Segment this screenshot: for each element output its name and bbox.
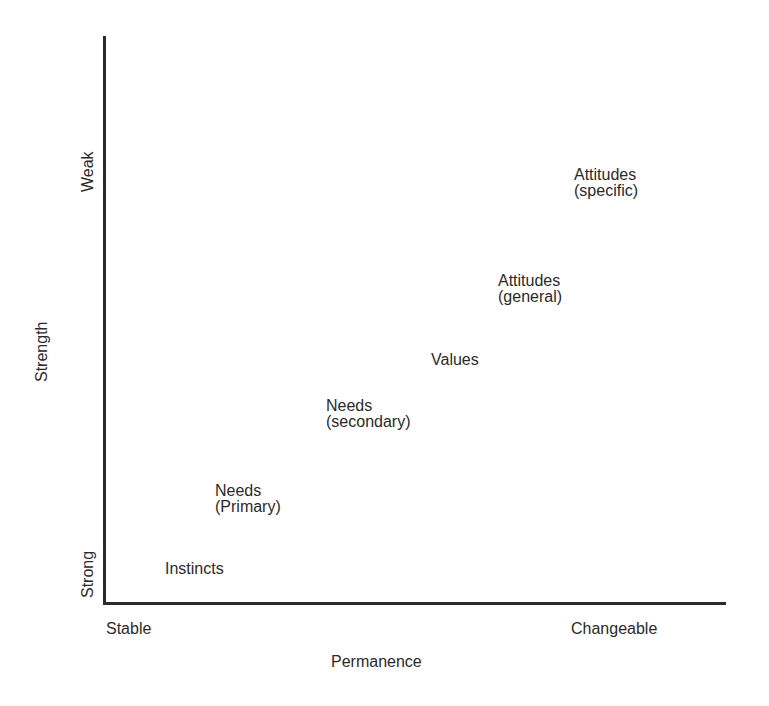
item-label: Needs	[215, 483, 281, 499]
item-label: Values	[431, 352, 479, 368]
x-axis-low-label: Stable	[106, 621, 151, 637]
item-needs-primary: Needs (Primary)	[215, 483, 281, 515]
x-axis-title: Permanence	[331, 654, 422, 670]
x-axis-high-label: Changeable	[571, 621, 657, 637]
item-sublabel: (specific)	[574, 183, 638, 199]
item-instincts: Instincts	[165, 561, 224, 577]
y-axis-title: Strength	[34, 322, 50, 382]
x-axis-line	[103, 602, 726, 605]
item-sublabel: (Primary)	[215, 499, 281, 515]
y-axis-line	[103, 36, 106, 605]
y-axis-low-label: Strong	[80, 551, 96, 598]
item-label: Attitudes	[574, 167, 638, 183]
item-sublabel: (general)	[498, 289, 562, 305]
item-values: Values	[431, 352, 479, 368]
item-needs-secondary: Needs (secondary)	[326, 398, 410, 430]
item-attitudes-general: Attitudes (general)	[498, 273, 562, 305]
item-attitudes-specific: Attitudes (specific)	[574, 167, 638, 199]
y-axis-high-label: Weak	[80, 151, 96, 192]
item-label: Attitudes	[498, 273, 562, 289]
item-sublabel: (secondary)	[326, 414, 410, 430]
item-label: Needs	[326, 398, 410, 414]
item-label: Instincts	[165, 561, 224, 577]
